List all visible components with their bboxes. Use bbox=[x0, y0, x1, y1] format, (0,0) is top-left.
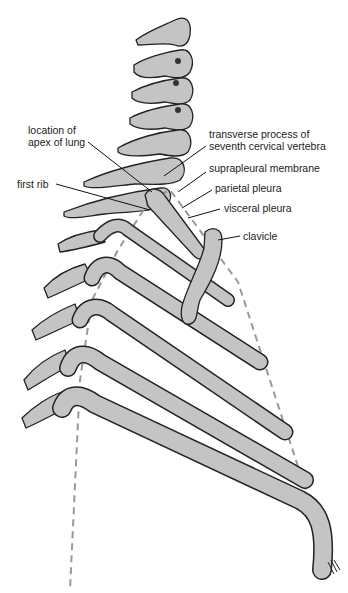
label-line: apex of lung bbox=[28, 136, 85, 148]
label-apex-of-lung: location of apex of lung bbox=[28, 124, 85, 148]
label-visceral-pleura: visceral pleura bbox=[224, 202, 292, 214]
skeleton-illustration bbox=[0, 0, 348, 593]
label-first-rib: first rib bbox=[17, 178, 49, 190]
label-clavicle: clavicle bbox=[243, 230, 277, 242]
anatomy-diagram: location of apex of lung transverse proc… bbox=[0, 0, 348, 593]
label-line: location of bbox=[28, 124, 85, 136]
label-line: seventh cervical vertebra bbox=[209, 140, 326, 152]
cervical-vertebrae bbox=[64, 18, 193, 218]
label-line: transverse process of bbox=[209, 128, 326, 140]
label-suprapleural-membrane: suprapleural membrane bbox=[209, 162, 320, 174]
label-transverse-process: transverse process of seventh cervical v… bbox=[209, 128, 326, 152]
label-parietal-pleura: parietal pleura bbox=[215, 182, 282, 194]
